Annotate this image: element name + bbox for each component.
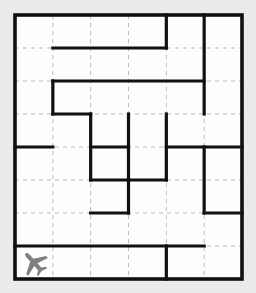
maze-cell[interactable] <box>204 246 242 279</box>
maze-cell[interactable] <box>15 48 53 81</box>
maze-cell[interactable] <box>129 180 167 213</box>
maze-cell[interactable] <box>53 180 91 213</box>
maze-board[interactable] <box>0 0 256 293</box>
maze-cell[interactable] <box>204 48 242 81</box>
maze-cell[interactable] <box>53 147 91 180</box>
maze-cell[interactable] <box>91 81 129 114</box>
maze-cell[interactable] <box>15 114 53 147</box>
maze-cell[interactable] <box>166 81 204 114</box>
maze-puzzle-root <box>0 0 256 293</box>
maze-cell[interactable] <box>204 180 242 213</box>
maze-cell[interactable] <box>15 213 53 246</box>
maze-cell[interactable] <box>166 180 204 213</box>
maze-cell[interactable] <box>129 147 167 180</box>
maze-cell[interactable] <box>53 81 91 114</box>
maze-cell[interactable] <box>91 114 129 147</box>
maze-cell[interactable] <box>15 147 53 180</box>
maze-cell[interactable] <box>91 213 129 246</box>
maze-cell[interactable] <box>15 180 53 213</box>
maze-cell[interactable] <box>166 246 204 279</box>
maze-cell[interactable] <box>91 246 129 279</box>
maze-cell[interactable] <box>53 213 91 246</box>
maze-cell[interactable] <box>204 15 242 48</box>
maze-cell[interactable] <box>204 147 242 180</box>
maze-cell[interactable] <box>129 15 167 48</box>
maze-canvas[interactable] <box>0 0 256 293</box>
maze-cell[interactable] <box>166 114 204 147</box>
maze-cell[interactable] <box>129 213 167 246</box>
maze-cell[interactable] <box>53 15 91 48</box>
maze-cell[interactable] <box>204 81 242 114</box>
maze-cell[interactable] <box>166 147 204 180</box>
maze-cell[interactable] <box>129 81 167 114</box>
maze-cell[interactable] <box>15 81 53 114</box>
maze-cell[interactable] <box>129 114 167 147</box>
maze-cell[interactable] <box>53 48 91 81</box>
maze-cell[interactable] <box>166 213 204 246</box>
maze-cell[interactable] <box>53 114 91 147</box>
maze-cell[interactable] <box>129 48 167 81</box>
maze-cell[interactable] <box>166 48 204 81</box>
maze-cell[interactable] <box>91 180 129 213</box>
maze-cell[interactable] <box>204 213 242 246</box>
maze-cell[interactable] <box>15 15 53 48</box>
maze-cell[interactable] <box>129 246 167 279</box>
maze-cell[interactable] <box>204 114 242 147</box>
maze-cell[interactable] <box>53 246 91 279</box>
maze-cell[interactable] <box>166 15 204 48</box>
maze-cell[interactable] <box>91 15 129 48</box>
maze-cell[interactable] <box>91 147 129 180</box>
maze-cell[interactable] <box>91 48 129 81</box>
